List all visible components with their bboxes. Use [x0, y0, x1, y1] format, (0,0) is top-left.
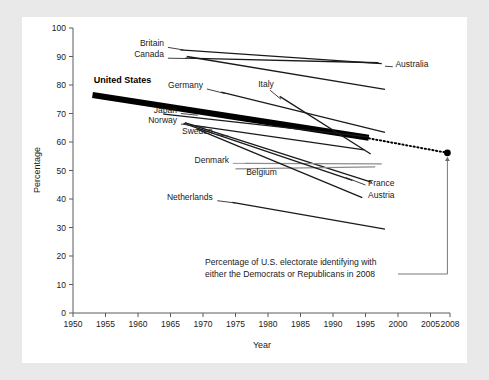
x-tick-label: 1955	[96, 319, 115, 329]
y-tick-label: 10	[57, 280, 67, 290]
series-label-sweden: Sweden	[182, 126, 213, 136]
series-label-italy: Italy	[258, 79, 274, 89]
x-tick-label: 1985	[291, 319, 310, 329]
x-tick-label: 1990	[324, 319, 343, 329]
projection-group	[369, 138, 451, 156]
series-label-canada: Canada	[134, 49, 164, 59]
annotation-line-1: Percentage of U.S. electorate identifyin…	[205, 257, 377, 267]
x-tick-label: 1980	[259, 319, 278, 329]
x-tick-label: 1960	[129, 319, 148, 329]
x-tick-label: 1995	[356, 319, 375, 329]
x-tick-label: 1950	[64, 319, 83, 329]
leader-line-italy	[270, 90, 281, 99]
series-label-norway: Norway	[148, 115, 178, 125]
series-label-britain: Britain	[140, 38, 164, 48]
leader-line-netherlands	[217, 201, 235, 203]
y-tick-label: 30	[57, 223, 67, 233]
leader-line-britain	[168, 47, 184, 50]
projection-dotted-line	[369, 138, 448, 153]
series-line-netherlands	[232, 202, 385, 229]
x-axis-ticks: 1950195519601965197019751980198519901995…	[64, 313, 460, 329]
series-label-denmark: Denmark	[195, 155, 230, 165]
line-chart: 0102030405060708090100 19501955196019651…	[0, 0, 489, 380]
annotation-arrowhead	[445, 157, 450, 161]
leader-line-australia	[385, 66, 393, 67]
y-tick-label: 50	[57, 166, 67, 176]
annotation-line-2: either the Democrats or Republicans in 2…	[205, 269, 375, 279]
series-label-belgium: Belgium	[246, 167, 277, 177]
series-label-japan: Japan	[154, 105, 177, 115]
y-axis-ticks: 0102030405060708090100	[52, 23, 73, 318]
leader-line-france	[346, 178, 366, 185]
x-tick-label: 2000	[389, 319, 408, 329]
series-label-netherlands: Netherlands	[167, 192, 213, 202]
series-label-austria: Austria	[368, 190, 395, 200]
x-tick-label: 1970	[194, 319, 213, 329]
x-tick-label: 2005	[421, 319, 440, 329]
figure-root: 0102030405060708090100 19501955196019651…	[0, 0, 489, 380]
annotation-group: Percentage of U.S. electorate identifyin…	[205, 157, 450, 279]
x-tick-label: 1975	[226, 319, 245, 329]
series-label-germany: Germany	[168, 80, 204, 90]
y-tick-label: 40	[57, 194, 67, 204]
y-tick-label: 70	[57, 109, 67, 119]
y-tick-label: 0	[61, 308, 66, 318]
y-axis-title: Percentage	[32, 147, 42, 193]
y-tick-label: 100	[52, 23, 66, 33]
x-tick-label: 1965	[161, 319, 180, 329]
y-tick-label: 80	[57, 80, 67, 90]
series-label-united-states: United States	[94, 75, 152, 85]
leader-line-germany	[207, 89, 225, 94]
series-line-denmark	[245, 163, 382, 164]
annotation-connector-line	[398, 159, 447, 274]
y-tick-label: 20	[57, 251, 67, 261]
series-label-australia: Australia	[395, 59, 428, 69]
x-axis-title: Year	[253, 340, 271, 350]
y-tick-label: 60	[57, 137, 67, 147]
x-tick-label: 2008	[441, 319, 460, 329]
series-label-france: France	[368, 178, 395, 188]
projection-endpoint-dot	[444, 149, 451, 156]
y-tick-label: 90	[57, 52, 67, 62]
